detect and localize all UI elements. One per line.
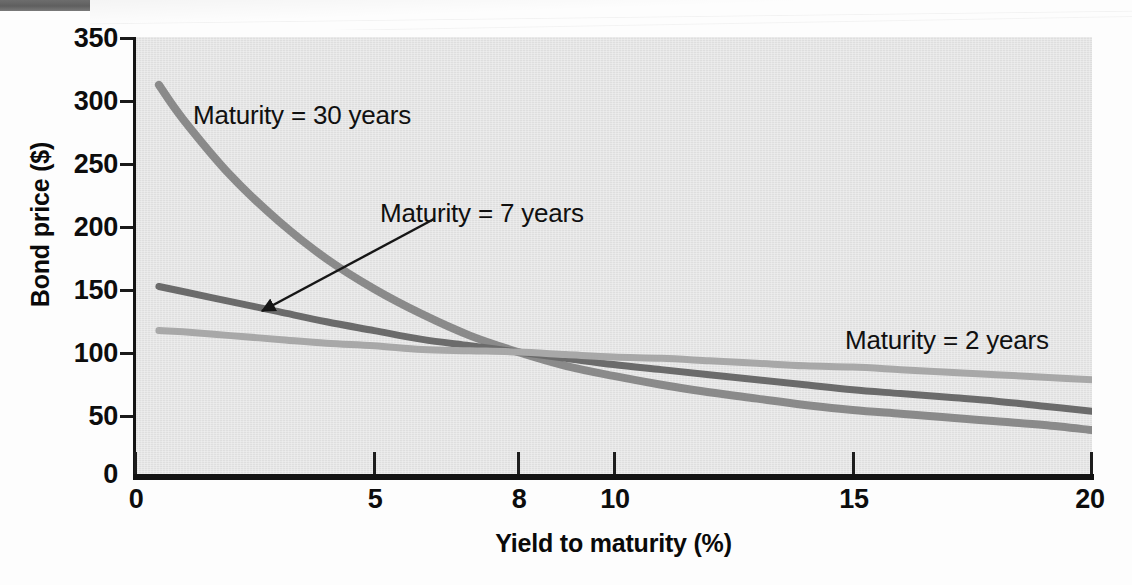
y-tick-label-50: 50 <box>32 403 118 430</box>
x-tick-label-5: 5 <box>335 486 415 513</box>
x-tick-label-0: 0 <box>96 486 176 513</box>
x-axis-line <box>133 474 1094 480</box>
x-tick-mark-15 <box>852 452 855 474</box>
y-tick-label-350: 350 <box>32 25 118 52</box>
x-tick-mark-5 <box>373 452 376 474</box>
y-axis-line <box>133 37 136 480</box>
annotation-maturity-7-years: Maturity = 7 years <box>380 198 584 229</box>
x-tick-label-15: 15 <box>814 486 894 513</box>
x-tick-mark-0 <box>134 452 137 474</box>
annotation-maturity-30-years: Maturity = 30 years <box>193 100 411 131</box>
x-tick-label-20: 20 <box>1050 486 1130 513</box>
annotation-maturity-2-years: Maturity = 2 years <box>845 325 1049 356</box>
x-tick-label-8: 8 <box>479 486 559 513</box>
x-tick-label-10: 10 <box>575 486 655 513</box>
y-axis-title: Bond price ($) <box>26 75 55 375</box>
curve-maturity-30-years <box>159 85 1092 430</box>
x-axis-title: Yield to maturity (%) <box>135 529 1092 558</box>
x-tick-mark-10 <box>613 452 616 474</box>
y-tick-label-0: 0 <box>32 461 118 488</box>
x-tick-mark-20 <box>1090 452 1093 474</box>
bond-price-yield-chart: 350 300 250 200 150 100 50 0 0 5 8 10 15… <box>0 0 1132 585</box>
x-tick-mark-8 <box>517 452 520 474</box>
